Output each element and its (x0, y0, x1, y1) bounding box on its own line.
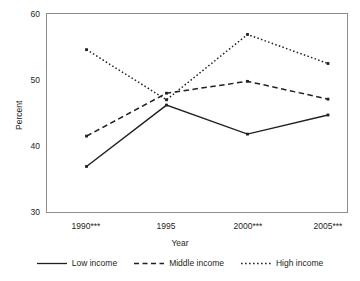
legend-item-middle-income: Middle income (134, 258, 224, 268)
data-point-marker (85, 135, 88, 138)
data-point-marker (246, 133, 249, 136)
legend-swatch-solid-icon (37, 259, 67, 268)
data-point-marker (327, 98, 330, 101)
series-layer (85, 33, 329, 168)
data-point-marker (246, 80, 249, 83)
plot-frame (47, 14, 348, 213)
data-point-marker (327, 114, 330, 117)
legend-swatch-dashed-icon (134, 259, 164, 268)
x-axis-title: Year (0, 238, 360, 248)
data-point-marker (327, 62, 330, 65)
legend-label-low-income: Low income (72, 258, 117, 268)
series-middle-income (85, 80, 329, 138)
data-point-marker (165, 92, 168, 95)
series-line (87, 81, 329, 136)
series-low-income (85, 104, 329, 168)
chart-legend: Low income Middle income High income (0, 258, 360, 268)
x-tick-label-1995: 1995 (126, 221, 206, 231)
data-point-marker (85, 48, 88, 51)
x-tick-label-2000: 2000*** (208, 221, 288, 231)
series-line (87, 34, 329, 99)
line-chart-figure: 60 50 40 30 Percent 1990*** 1995 2000***… (0, 0, 360, 281)
legend-item-high-income: High income (241, 258, 323, 268)
data-point-marker (165, 98, 168, 101)
legend-item-low-income: Low income (37, 258, 117, 268)
legend-swatch-dotted-icon (241, 259, 271, 268)
legend-label-middle-income: Middle income (169, 258, 224, 268)
data-point-marker (165, 104, 168, 107)
x-tick-label-2005: 2005*** (288, 221, 360, 231)
legend-label-high-income: High income (276, 258, 323, 268)
data-point-marker (246, 33, 249, 36)
data-point-marker (85, 165, 88, 168)
x-tick-label-1990: 1990*** (46, 221, 126, 231)
series-line (87, 105, 329, 166)
